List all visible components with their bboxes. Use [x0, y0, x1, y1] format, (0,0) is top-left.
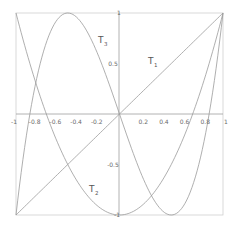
y-tick-label: -1: [114, 211, 120, 218]
chebyshev-chart: -1-0.8-0.6-0.4-0.20.20.40.60.81 10.5-0.5…: [0, 0, 239, 231]
y-tick-label: 0.5: [108, 60, 118, 67]
label-t2-sub: 2: [95, 190, 99, 196]
x-tick-label: -0.4: [70, 118, 82, 125]
label-t3-main: T: [97, 35, 104, 45]
x-tick-label: -0.2: [91, 118, 103, 125]
x-tick-label: 0.6: [180, 118, 190, 125]
x-tick-label: -0.6: [50, 118, 62, 125]
label-t3-sub: 3: [104, 41, 108, 47]
label-t1: T 1: [147, 56, 158, 68]
x-tick-label: 0.2: [138, 118, 148, 125]
x-tick-label: 1: [224, 118, 228, 125]
x-tick-label: -1: [11, 118, 17, 125]
label-t3: T 3: [97, 35, 108, 47]
x-tick-labels: -1-0.8-0.6-0.4-0.20.20.40.60.81: [11, 118, 228, 125]
y-tick-label: -0.5: [107, 161, 119, 168]
x-tick-label: 0.8: [201, 118, 211, 125]
x-tick-label: 0.4: [159, 118, 169, 125]
x-tick-label: -0.8: [29, 118, 41, 125]
label-t2: T 2: [88, 184, 99, 196]
label-t1-main: T: [147, 56, 154, 66]
y-tick-label: 1: [117, 9, 121, 16]
label-t1-sub: 1: [154, 62, 158, 68]
label-t2-main: T: [88, 184, 95, 194]
